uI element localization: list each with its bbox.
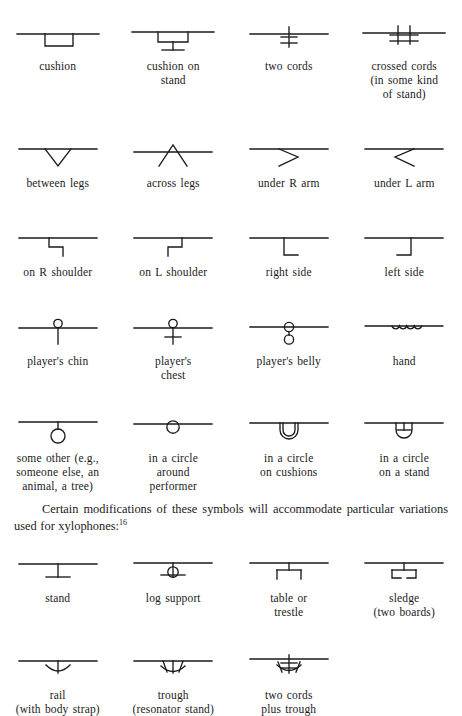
row-spacer — [0, 101, 462, 135]
paragraph-text: Certain modifications of these symbols w… — [14, 502, 448, 533]
cushion-glyph — [0, 20, 116, 58]
symbol-caption: trough (resonator stand) — [129, 688, 218, 716]
symbol-caption: in a circle on cushions — [256, 451, 321, 479]
symbol-cell-between-legs: between legs — [0, 135, 116, 190]
left-side-glyph — [347, 224, 462, 264]
symbol-cell-crossed-cords: crossed cords (in some kind of stand) — [347, 20, 462, 101]
symbol-cell-left-side: left side — [347, 224, 462, 279]
symbol-cell-hand: hand — [347, 313, 462, 382]
symbol-caption: on L shoulder — [135, 265, 211, 279]
symbol-cell-empty — [347, 647, 462, 716]
symbol-cell-players-chest: player's chest — [116, 313, 232, 382]
symbol-grid-row-7: rail (with body strap) trough (r — [0, 647, 462, 716]
in-a-circle-on-a-stand-glyph — [347, 410, 462, 450]
stand-glyph — [0, 550, 116, 590]
symbol-cell-trough: trough (resonator stand) — [116, 647, 232, 716]
two-cords-plus-trough-glyph — [231, 647, 347, 687]
symbol-cell-right-side: right side — [231, 224, 347, 279]
symbol-grid-row-4: player's chin player's chest — [0, 313, 462, 382]
symbol-cell-cushion: cushion — [0, 20, 116, 101]
symbol-cell-across-legs: across legs — [116, 135, 232, 190]
symbol-caption: cushion on stand — [143, 59, 204, 87]
symbol-cell-in-a-circle-on-cushions: in a circle on cushions — [231, 410, 347, 493]
symbol-caption: two cords plus trough — [257, 688, 320, 716]
symbol-cell-players-chin: player's chin — [0, 313, 116, 382]
symbol-cell-table-or-trestle: table or trestle — [231, 550, 347, 619]
some-other-glyph — [0, 410, 116, 450]
right-side-glyph — [231, 224, 347, 264]
on-r-shoulder-glyph — [0, 224, 116, 264]
symbol-caption: player's belly — [253, 354, 325, 368]
symbol-cell-log-support: log support — [116, 550, 232, 619]
symbol-caption: under L arm — [370, 176, 438, 190]
symbol-caption: left side — [381, 265, 428, 279]
symbol-cell-players-belly: player's belly — [231, 313, 347, 382]
symbol-cell-cushion-on-stand: cushion on stand — [116, 20, 232, 101]
empty-glyph-slot — [347, 647, 462, 687]
symbol-grid-row-2: between legs across legs — [0, 135, 462, 190]
symbol-caption: player's chin — [23, 354, 92, 368]
symbol-cell-on-l-shoulder: on L shoulder — [116, 224, 232, 279]
symbol-cell-rail: rail (with body strap) — [0, 647, 116, 716]
symbol-cell-in-a-circle-on-a-stand: in a circle on a stand — [347, 410, 462, 493]
symbol-cell-in-a-circle-around-performer: in a circle around performer — [116, 410, 232, 493]
across-legs-glyph — [116, 135, 232, 175]
row-spacer — [0, 190, 462, 224]
symbol-cell-stand: stand — [0, 550, 116, 619]
under-l-arm-glyph — [347, 135, 462, 175]
crossed-cords-glyph — [347, 20, 462, 58]
on-l-shoulder-glyph — [116, 224, 232, 264]
symbol-caption: table or trestle — [266, 591, 311, 619]
row-spacer — [0, 279, 462, 313]
symbol-caption: rail (with body strap) — [12, 688, 104, 716]
players-chin-glyph — [0, 313, 116, 353]
symbol-caption: player's chest — [151, 354, 195, 382]
trough-glyph — [116, 647, 232, 687]
symbol-caption: under R arm — [254, 176, 324, 190]
symbol-cell-on-r-shoulder: on R shoulder — [0, 224, 116, 279]
symbol-caption: log support — [142, 591, 205, 605]
symbol-caption: some other (e.g., someone else, an anima… — [12, 451, 103, 493]
symbol-cell-two-cords-plus-trough: two cords plus trough — [231, 647, 347, 716]
symbol-cell-two-cords: two cords — [231, 20, 347, 101]
symbol-grid-main: cushion cushion on stand — [0, 0, 462, 101]
row-spacer — [0, 382, 462, 410]
table-or-trestle-glyph — [231, 550, 347, 590]
row-spacer — [0, 534, 462, 550]
symbol-caption: across legs — [143, 176, 204, 190]
two-cords-glyph — [231, 20, 347, 58]
symbol-caption: crossed cords (in some kind of stand) — [366, 59, 442, 101]
symbol-caption: on R shoulder — [19, 265, 96, 279]
in-a-circle-glyph — [116, 410, 232, 450]
symbol-caption: hand — [389, 354, 420, 368]
between-legs-glyph — [0, 135, 116, 175]
symbol-cell-under-r-arm: under R arm — [231, 135, 347, 190]
under-r-arm-glyph — [231, 135, 347, 175]
symbol-cell-under-l-arm: under L arm — [347, 135, 462, 190]
symbol-cell-some-other: some other (e.g., someone else, an anima… — [0, 410, 116, 493]
symbol-caption: sledge (two boards) — [370, 591, 439, 619]
symbol-caption: in a circle around performer — [145, 451, 202, 493]
symbol-grid-row-5: some other (e.g., someone else, an anima… — [0, 410, 462, 493]
players-belly-glyph — [231, 313, 347, 353]
symbol-grid-row-3: on R shoulder on L shoulder — [0, 224, 462, 279]
row-spacer — [0, 619, 462, 647]
symbol-caption: two cords — [261, 59, 317, 73]
symbol-grid-row-6: stand log support — [0, 550, 462, 619]
body-paragraph: Certain modifications of these symbols w… — [14, 493, 448, 534]
hand-glyph — [347, 313, 462, 353]
symbol-caption: in a circle on a stand — [375, 451, 434, 479]
symbol-caption: stand — [41, 591, 74, 605]
in-a-circle-on-cushions-glyph — [231, 410, 347, 450]
rail-glyph — [0, 647, 116, 687]
footnote-marker: 16 — [119, 518, 127, 527]
log-support-glyph — [116, 550, 232, 590]
players-chest-glyph — [116, 313, 232, 353]
sledge-glyph — [347, 550, 462, 590]
symbol-cell-sledge: sledge (two boards) — [347, 550, 462, 619]
cushion-on-stand-glyph — [116, 20, 232, 58]
symbol-caption: cushion — [35, 59, 80, 73]
symbol-caption: between legs — [22, 176, 93, 190]
symbol-caption: right side — [262, 265, 316, 279]
